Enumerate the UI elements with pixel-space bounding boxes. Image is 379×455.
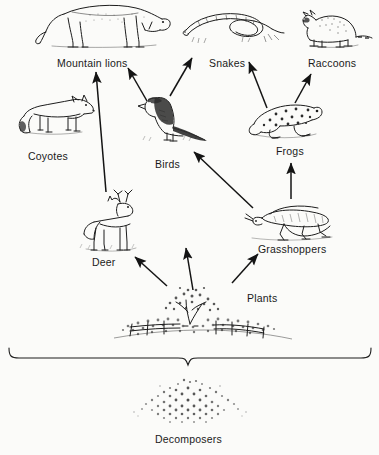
arrow-plants-to-grasshoppers [232, 254, 258, 283]
raccoon-illustration [296, 4, 374, 50]
food-web-diagram: Mountain lions Snakes [0, 0, 379, 455]
node-label-frogs: Frogs [276, 145, 304, 157]
node-label-snakes: Snakes [209, 57, 245, 69]
node-label-coyotes: Coyotes [28, 150, 68, 162]
node-label-plants: Plants [247, 292, 277, 304]
node-label-mountain-lions: Mountain lions [57, 57, 128, 69]
node-label-birds: Birds [155, 158, 180, 170]
node-label-grasshoppers: Grasshoppers [258, 243, 326, 255]
grasshopper-illustration [240, 196, 340, 242]
snake-illustration [180, 4, 290, 50]
deer-illustration [74, 188, 150, 254]
bird-illustration [137, 86, 213, 148]
node-label-deer: Deer [92, 256, 116, 268]
decomposers-illustration [120, 372, 260, 430]
frog-illustration [244, 96, 324, 144]
node-label-decomposers: Decomposers [155, 433, 222, 445]
coyote-illustration [10, 92, 98, 142]
mountain-lion-illustration [32, 2, 174, 50]
node-label-raccoons: Raccoons [308, 57, 356, 69]
